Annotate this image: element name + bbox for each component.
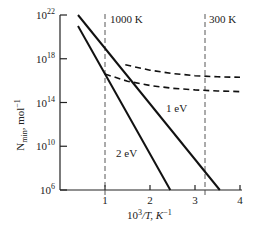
series-upper-dashed	[125, 65, 240, 78]
y-tick-label: 1010	[36, 138, 55, 152]
series-2-ev	[78, 26, 170, 190]
y-tick-label: 1018	[36, 51, 55, 65]
label-2ev: 2 eV	[116, 147, 137, 159]
label-1ev: 1 eV	[166, 102, 187, 114]
x-ticks: 1234	[102, 185, 243, 206]
ref-label-1000k: 1000 K	[110, 13, 143, 25]
chart: 1061010101410181022 1234 1000 K 300 K 1 …	[0, 0, 255, 231]
y-tick-label: 1022	[36, 7, 55, 21]
x-axis-label: 103/T, K−1	[127, 208, 172, 221]
x-tick-label: 1	[102, 194, 108, 206]
x-tick-label: 4	[237, 194, 243, 206]
ref-label-300k: 300 K	[209, 13, 236, 25]
y-tick-label: 1014	[36, 95, 55, 109]
y-tick-label: 106	[40, 182, 55, 196]
series-1-ev	[78, 15, 220, 190]
y-ticks: 1061010101410181022	[36, 7, 67, 196]
y-axis-label: Nmin, mol−1	[13, 99, 29, 151]
series	[78, 15, 240, 190]
x-tick-label: 2	[147, 194, 153, 206]
x-tick-label: 3	[192, 194, 198, 206]
